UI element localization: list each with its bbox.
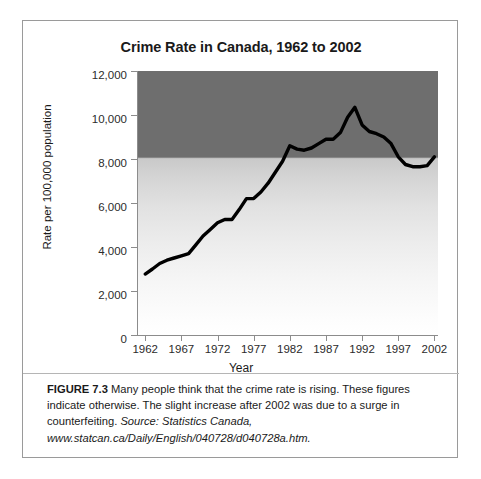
- plot-area: [138, 71, 438, 335]
- y-axis-line: [137, 71, 138, 336]
- y-tick-label-4000: 4,000: [23, 241, 127, 259]
- x-tick-mark: [362, 335, 363, 341]
- caption-figure-number: FIGURE 7.3: [47, 383, 108, 395]
- x-tick-label: 1982: [270, 343, 310, 355]
- y-tick-label-10000: 10,000: [23, 109, 127, 127]
- y-tick-label-text: 10,000: [92, 113, 127, 125]
- x-tick-mark: [254, 335, 255, 341]
- x-tick-label: 1997: [378, 343, 418, 355]
- x-tick-label: 1992: [342, 343, 382, 355]
- y-tick-label-text: 4,000: [98, 245, 127, 257]
- x-tick-mark: [181, 335, 182, 341]
- y-tick-label-text: 6,000: [98, 201, 127, 213]
- y-tick-label-text: 2,000: [98, 289, 127, 301]
- caption-divider: [23, 373, 459, 374]
- x-tick-mark: [290, 335, 291, 341]
- x-tick-mark: [434, 335, 435, 341]
- y-tick-label-0: 0: [23, 329, 127, 347]
- x-tick-label: 1967: [161, 343, 201, 355]
- y-tick-label-12000: 12,000: [23, 65, 127, 83]
- crime-rate-line-chart: [138, 71, 438, 335]
- x-tick-label: 1987: [306, 343, 346, 355]
- figure-caption: FIGURE 7.3 Many people think that the cr…: [47, 381, 439, 446]
- x-tick-label: 1962: [125, 343, 165, 355]
- x-tick-label: 1972: [198, 343, 238, 355]
- data-series-line: [145, 107, 434, 274]
- x-tick-mark: [398, 335, 399, 341]
- y-tick-label-2000: 2,000: [23, 285, 127, 303]
- y-tick-label-text: 12,000: [92, 69, 127, 81]
- x-tick-mark: [326, 335, 327, 341]
- x-tick-label: 1977: [234, 343, 274, 355]
- chart-title: Crime Rate in Canada, 1962 to 2002: [23, 39, 459, 55]
- x-tick-mark: [218, 335, 219, 341]
- y-axis-title: Rate per 100,000 population: [41, 77, 53, 277]
- figure-frame: Crime Rate in Canada, 1962 to 2002 0 2,0…: [22, 20, 458, 458]
- x-tick-mark: [145, 335, 146, 341]
- y-tick-label-8000: 8,000: [23, 153, 127, 171]
- y-tick-label-6000: 6,000: [23, 197, 127, 215]
- x-tick-label: 2002: [414, 343, 454, 355]
- y-tick-label-text: 8,000: [98, 157, 127, 169]
